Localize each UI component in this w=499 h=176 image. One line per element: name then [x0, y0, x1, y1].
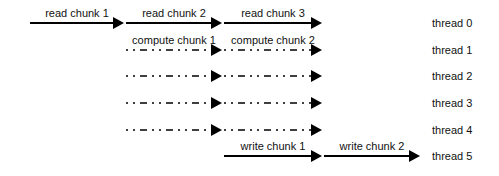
thread-row: thread 4: [126, 124, 472, 136]
arrowhead-icon: [211, 97, 222, 109]
arrowhead-icon: [311, 17, 322, 29]
thread-label: thread 3: [432, 97, 472, 109]
segment-label: write chunk 1: [240, 140, 306, 152]
thread-row: read chunk 1read chunk 2read chunk 3thre…: [30, 7, 472, 29]
arrowhead-icon: [211, 124, 222, 136]
segment-label: compute chunk 1: [132, 34, 216, 46]
thread-row: thread 2: [126, 70, 472, 82]
arrowhead-icon: [409, 150, 420, 162]
arrowhead-icon: [211, 70, 222, 82]
segment-label: read chunk 2: [142, 7, 206, 19]
arrowhead-icon: [311, 124, 322, 136]
arrowhead-icon: [311, 70, 322, 82]
thread-label: thread 1: [432, 44, 472, 56]
thread-label: thread 2: [432, 70, 472, 82]
thread-row: compute chunk 1compute chunk 2thread 1: [126, 34, 472, 56]
arrowhead-icon: [311, 150, 322, 162]
arrowhead-icon: [311, 97, 322, 109]
thread-label: thread 5: [432, 150, 472, 162]
segment-label: read chunk 3: [241, 7, 305, 19]
arrowhead-icon: [211, 17, 222, 29]
segment-label: compute chunk 2: [231, 34, 315, 46]
segment-label: read chunk 1: [45, 7, 109, 19]
thread-label: thread 0: [432, 17, 472, 29]
pipeline-diagram: read chunk 1read chunk 2read chunk 3thre…: [0, 0, 499, 176]
segment-label: write chunk 2: [339, 140, 405, 152]
thread-row: thread 3: [126, 97, 472, 109]
arrowhead-icon: [113, 17, 124, 29]
thread-row: write chunk 1write chunk 2thread 5: [224, 140, 472, 162]
thread-label: thread 4: [432, 124, 472, 136]
